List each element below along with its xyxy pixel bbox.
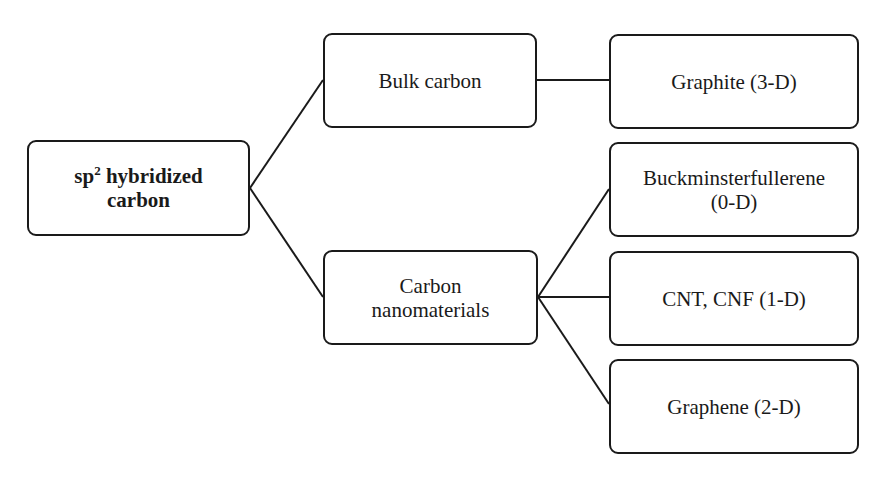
node-graphite: Graphite (3-D) — [609, 34, 859, 129]
nano-label-line1: Carbon — [400, 274, 462, 298]
buckminster-label-line2: (0-D) — [711, 190, 758, 214]
node-carbon-nanomaterials: Carbon nanomaterials — [323, 250, 538, 345]
nano-label-line2: nanomaterials — [372, 298, 490, 322]
graphite-label: Graphite (3-D) — [671, 70, 796, 94]
edge-nano-buckminster — [538, 189, 609, 297]
buckminster-label-line1: Buckminsterfullerene — [643, 166, 825, 190]
root-label-rest: hybridized — [101, 164, 203, 188]
root-label-prefix: sp — [74, 164, 94, 188]
edge-nano-graphene — [538, 297, 609, 404]
node-bulk-carbon: Bulk carbon — [323, 33, 537, 128]
cnt-cnf-label: CNT, CNF (1-D) — [662, 287, 806, 311]
graphene-label: Graphene (2-D) — [667, 395, 801, 419]
node-sp2-hybridized-carbon: sp2 hybridized carbon — [27, 140, 250, 236]
node-buckminsterfullerene: Buckminsterfullerene (0-D) — [609, 142, 859, 237]
edge-root-nano — [250, 188, 323, 297]
node-graphene: Graphene (2-D) — [609, 359, 859, 454]
edge-root-bulk — [250, 80, 323, 188]
root-label-line2: carbon — [107, 188, 170, 212]
node-cnt-cnf: CNT, CNF (1-D) — [609, 251, 859, 346]
bulk-carbon-label: Bulk carbon — [378, 69, 481, 93]
